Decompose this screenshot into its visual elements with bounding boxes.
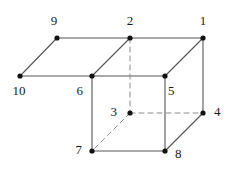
vertex-dot-6 [89,73,94,78]
vertex-dot-4 [200,110,205,115]
vertex-dot-3 [127,110,132,115]
vertex-label-9: 9 [51,13,58,28]
vertex-label-3: 3 [111,104,118,119]
vertices-layer [17,35,205,153]
vertex-label-6: 6 [77,83,84,98]
edge-2-6 [92,38,130,76]
edge-1-5 [165,38,203,76]
vertex-dot-5 [162,73,167,78]
figure-canvas: 12345678910 [0,0,227,171]
vertex-label-4: 4 [214,104,221,119]
vertex-dot-9 [54,35,59,40]
cube-diagram: 12345678910 [0,0,227,171]
vertex-dot-8 [162,148,167,153]
vertex-dot-7 [89,148,94,153]
vertex-label-10: 10 [13,83,26,98]
vertex-dot-10 [17,73,22,78]
vertex-label-1: 1 [200,13,207,28]
edge-8-4 [165,113,203,151]
vertex-label-5: 5 [168,83,175,98]
vertex-label-8: 8 [175,146,182,161]
vertex-label-2: 2 [127,13,134,28]
labels-layer: 12345678910 [13,13,222,161]
vertex-dot-2 [127,35,132,40]
edges-layer [20,38,203,151]
vertex-dot-1 [200,35,205,40]
edge-9-10 [20,38,57,76]
vertex-label-7: 7 [76,142,83,157]
